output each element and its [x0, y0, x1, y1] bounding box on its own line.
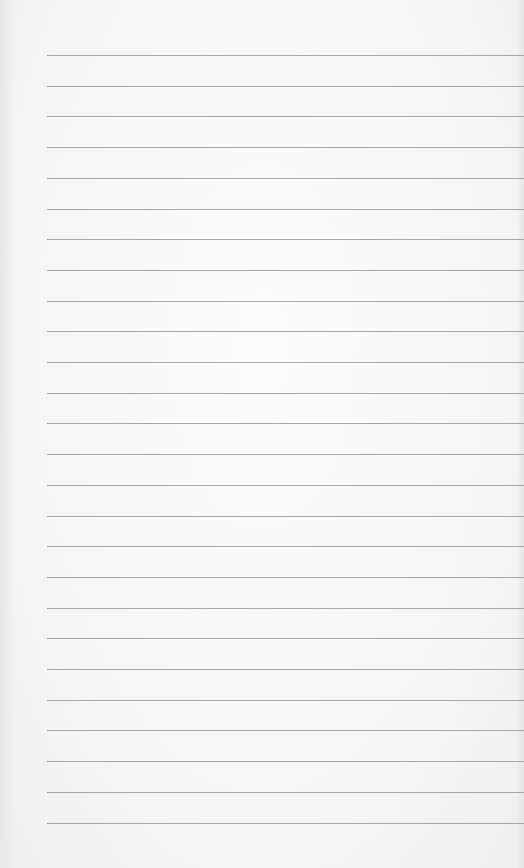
ruled-line — [47, 792, 524, 793]
ruled-line — [47, 209, 524, 210]
ruled-line — [47, 423, 524, 424]
paper-right-edge-shadow — [516, 0, 524, 868]
ruled-line — [47, 301, 524, 302]
ruled-line — [47, 362, 524, 363]
ruled-line — [47, 393, 524, 394]
ruled-line — [47, 700, 524, 701]
ruled-line — [47, 761, 524, 762]
ruled-line — [47, 546, 524, 547]
ruled-line — [47, 147, 524, 148]
paper-left-edge-shadow — [0, 0, 14, 868]
ruled-line — [47, 239, 524, 240]
ruled-line — [47, 55, 524, 56]
ruled-line — [47, 485, 524, 486]
ruled-line — [47, 116, 524, 117]
ruled-line — [47, 638, 524, 639]
ruled-line — [47, 608, 524, 609]
ruled-line — [47, 178, 524, 179]
ruled-line — [47, 577, 524, 578]
ruled-line — [47, 730, 524, 731]
ruled-line — [47, 331, 524, 332]
lined-paper — [0, 0, 524, 868]
ruled-line — [47, 270, 524, 271]
ruled-line — [47, 454, 524, 455]
ruled-line — [47, 823, 524, 824]
ruled-line — [47, 516, 524, 517]
ruled-line — [47, 86, 524, 87]
ruled-line — [47, 669, 524, 670]
